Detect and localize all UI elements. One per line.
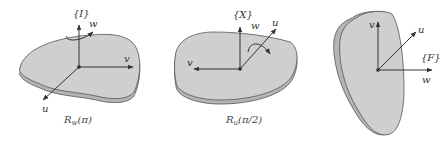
caption-rotation-2: Ru(π/2): [225, 114, 262, 127]
frame-label-X: {X}: [233, 9, 253, 20]
axis-v-label: v: [124, 53, 130, 64]
panel-2-intermediate-frame: {X} w u v Ru(π/2): [175, 9, 298, 127]
axis-u-label: u: [42, 103, 48, 114]
rotation-diagram: {I} w v u Rw(π) {X} w u v Ru(π/2) v u {F…: [0, 0, 447, 144]
panel-1-initial-frame: {I} w v u Rw(π): [20, 8, 140, 127]
axis-w-label: w: [251, 20, 260, 31]
axis-u-label: u: [272, 17, 278, 28]
frame-label-I: {I}: [73, 8, 90, 19]
axis-w-label: w: [422, 74, 431, 85]
axis-w-label: w: [89, 18, 98, 29]
caption-rotation-1: Rw(π): [63, 114, 92, 127]
panel-3-final-frame: v u {F} w: [334, 11, 441, 135]
axis-v-label: v: [369, 19, 375, 30]
axis-v-label: v: [187, 57, 193, 68]
frame-label-F: {F}: [421, 52, 441, 63]
axis-u-label: u: [418, 24, 424, 35]
